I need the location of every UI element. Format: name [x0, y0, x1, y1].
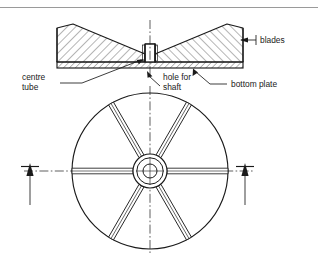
tube-wall-hatch-right: [155, 45, 158, 61]
label-centre-tube-line2: tube: [22, 82, 39, 92]
blade-left-section: [57, 24, 145, 62]
section-view: blades centre tube hole for shaft bottom…: [22, 20, 285, 92]
blade-plan-180: [72, 168, 133, 174]
section-arrow-left: [21, 163, 39, 205]
label-bottom-plate: bottom plate: [231, 79, 277, 89]
blade-plan-120: [109, 184, 144, 240]
blade-plan-300: [156, 102, 191, 158]
hole-for-shaft-leader-line: [149, 76, 160, 86]
bottom-plate-leader-diagonal: [196, 72, 210, 84]
blade-plan-0: [167, 168, 228, 174]
blade-right-section: [155, 24, 243, 62]
label-hole-for-shaft-line2: shaft: [163, 82, 182, 92]
tube-wall-hatch-left: [143, 45, 146, 61]
bottom-plate-leader-arrowhead: [193, 69, 198, 77]
blade-plan-240: [109, 102, 144, 158]
label-blades: blades: [260, 35, 285, 45]
blade-plan-60: [156, 184, 191, 240]
section-arrow-right: [236, 163, 254, 205]
impeller-engineering-drawing: blades centre tube hole for shaft bottom…: [0, 0, 318, 253]
plan-view: [21, 86, 255, 253]
label-centre-tube-line1: centre: [22, 72, 46, 82]
label-hole-for-shaft-line1: hole for: [163, 72, 191, 82]
